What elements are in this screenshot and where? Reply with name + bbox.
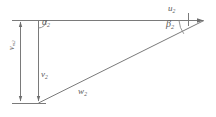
label-beta2: β2 xyxy=(166,19,174,29)
vector-w2-line xyxy=(39,21,205,104)
label-v2: v2 xyxy=(41,70,48,79)
vector-diagram-canvas xyxy=(0,0,216,117)
label-u2: u2 xyxy=(168,4,175,13)
velocity-triangle-figure: u2 β2 α2 vm2 v2 w2 xyxy=(0,0,216,117)
label-w2: w2 xyxy=(78,87,87,96)
label-vm2: vm2 xyxy=(8,40,16,50)
label-alpha2: α2 xyxy=(42,18,50,28)
